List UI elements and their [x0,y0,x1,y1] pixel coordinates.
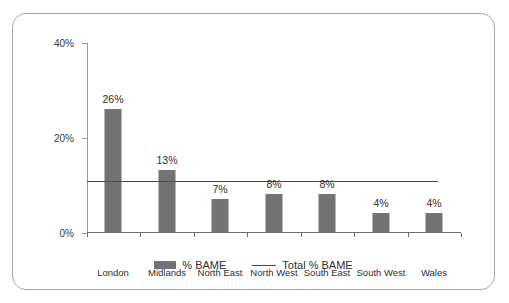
plot-area: 40% 20% 0% 26% 13% 7% 8% 8% 4% [87,43,461,233]
bar-label-midlands: 13% [156,154,177,166]
bar-label-london: 26% [102,93,123,105]
legend-item-bame[interactable]: % BAME [154,259,226,271]
chart-legend: % BAME Total % BAME [13,259,494,271]
x-tick-6 [408,233,409,237]
y-tick-label-0: 0% [60,228,74,239]
bar-wales[interactable] [426,213,443,232]
x-tick-4 [301,233,302,237]
x-tick-3 [247,233,248,237]
bar-south-west[interactable] [373,213,390,232]
bar-label-wales: 4% [426,197,441,209]
legend-label-bame: % BAME [182,259,226,271]
y-tick-label-40: 40% [54,38,74,49]
y-axis-line [87,43,88,233]
bar-label-south-west: 4% [373,197,388,209]
bar-north-west[interactable] [266,194,283,232]
bar-label-north-east: 7% [212,183,227,195]
bar-label-north-west: 8% [266,178,281,190]
x-tick-0 [87,233,88,237]
bar-midlands[interactable] [159,170,176,232]
legend-bar-swatch-icon [154,261,176,269]
total-bame-line [87,181,438,182]
bar-london[interactable] [105,109,122,233]
legend-item-total-bame[interactable]: Total % BAME [252,259,352,271]
bar-north-east[interactable] [212,199,229,232]
bar-south-east[interactable] [319,194,336,232]
y-tick-label-20: 20% [54,133,74,144]
legend-label-total-bame: Total % BAME [282,259,352,271]
chart-card: 40% 20% 0% 26% 13% 7% 8% 8% 4% [12,13,495,290]
legend-line-swatch-icon [252,265,276,266]
bar-label-south-east: 8% [319,178,334,190]
x-tick-7 [461,233,462,237]
x-tick-5 [354,233,355,237]
y-tick-20: 20% [82,138,87,139]
x-axis-line [87,232,461,233]
y-tick-40: 40% [82,43,87,44]
x-tick-1 [140,233,141,237]
x-tick-2 [194,233,195,237]
